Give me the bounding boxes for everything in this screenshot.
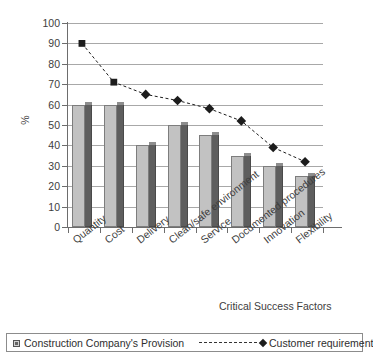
- bar-side-face: [117, 102, 124, 227]
- y-tick-label: 0: [30, 222, 60, 232]
- bar-front-face: [104, 105, 117, 227]
- bar: [72, 102, 92, 227]
- bar: [104, 102, 124, 227]
- legend-label-bars: Construction Company's Provision: [24, 337, 184, 349]
- legend-item-line: Customer requirement: [199, 337, 373, 349]
- x-tick-mark: [68, 228, 69, 233]
- y-tick-label: 40: [30, 140, 60, 150]
- bar-top-face: [212, 132, 219, 135]
- gridline: [68, 84, 323, 85]
- diamond-marker-icon: [259, 339, 267, 347]
- x-tick-mark: [227, 228, 228, 233]
- y-tick-label: 20: [30, 181, 60, 191]
- bar: [136, 142, 156, 227]
- x-tick-mark: [291, 228, 292, 233]
- legend-item-bars: Construction Company's Provision: [13, 337, 184, 349]
- y-tick-label: 100: [30, 18, 60, 28]
- x-tick-mark: [196, 228, 197, 233]
- y-tick-label: 80: [30, 59, 60, 69]
- y-tick-label: 90: [30, 38, 60, 48]
- y-axis-title: %: [19, 115, 31, 124]
- gridline: [68, 43, 323, 44]
- y-tick-label: 10: [30, 202, 60, 212]
- y-tick-label: 30: [30, 161, 60, 171]
- bar-top-face: [181, 122, 188, 125]
- bar-side-face: [181, 122, 188, 227]
- bar-front-face: [136, 145, 149, 227]
- gridline: [68, 64, 323, 65]
- x-tick-mark: [132, 228, 133, 233]
- y-tick-label: 60: [30, 100, 60, 110]
- x-tick-mark: [259, 228, 260, 233]
- bar-front-face: [72, 105, 85, 227]
- square-swatch-icon: [13, 340, 20, 347]
- bar: [168, 122, 188, 227]
- bar-side-face: [244, 153, 251, 227]
- bar-top-face: [276, 163, 283, 166]
- x-tick-mark: [164, 228, 165, 233]
- bar-top-face: [149, 142, 156, 145]
- chart-legend: Construction Company's Provision Custome…: [6, 333, 363, 352]
- gridline: [68, 23, 323, 24]
- legend-label-line: Customer requirement: [269, 337, 373, 349]
- bar-top-face: [244, 153, 251, 156]
- x-tick-mark: [100, 228, 101, 233]
- bar-front-face: [168, 125, 181, 227]
- dashed-line-icon: [199, 342, 257, 344]
- y-tick-label: 50: [30, 120, 60, 130]
- x-tick-mark: [323, 228, 324, 233]
- bar-side-face: [85, 102, 92, 227]
- x-axis-line: [67, 227, 342, 228]
- bar-top-face: [85, 102, 92, 105]
- y-tick-label: 70: [30, 79, 60, 89]
- bar-side-face: [149, 142, 156, 227]
- x-axis-title: Critical Success Factors: [219, 300, 332, 312]
- bar-top-face: [117, 102, 124, 105]
